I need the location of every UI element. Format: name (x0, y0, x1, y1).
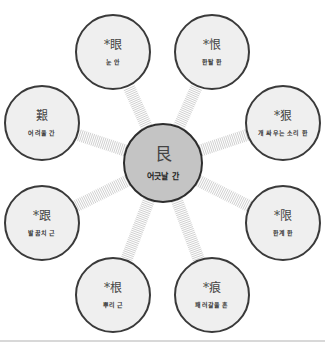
center-hanja-char: 艮 (155, 146, 172, 163)
korean-reading: 패러갈을 흔 (195, 300, 228, 309)
hanja-char: *眼 (104, 39, 122, 51)
radial-diagram: *眼 눈 안 *恨 한탈 한 *狠 개 싸우는 소리 한 *限 한계 한 *痕 … (0, 0, 325, 345)
korean-reading: 개 싸우는 소리 한 (258, 128, 308, 137)
center-node: 艮 어긋날 간 (123, 123, 203, 203)
satellite-node: *狠 개 싸우는 소리 한 (245, 85, 321, 161)
bottom-divider (0, 340, 325, 342)
korean-reading: 발꿈치 근 (28, 228, 55, 237)
korean-reading: 한탈 한 (202, 57, 223, 66)
hanja-char: *痕 (203, 282, 221, 294)
hanja-char: *限 (274, 210, 292, 222)
satellite-node: *眼 눈 안 (75, 14, 151, 90)
center-korean-reading: 어긋날 간 (147, 170, 179, 181)
korean-reading: 어려울 간 (28, 128, 55, 137)
hanja-char: *跟 (33, 210, 51, 222)
hanja-char: *根 (104, 282, 122, 294)
satellite-node: *痕 패러갈을 흔 (174, 257, 250, 333)
hanja-char: *恨 (203, 39, 221, 51)
satellite-node: *跟 발꿈치 근 (4, 185, 80, 261)
satellite-node: 艱 어려울 간 (4, 85, 80, 161)
korean-reading: 눈 안 (106, 57, 121, 66)
satellite-node: *根 뿌리 근 (75, 257, 151, 333)
hanja-char: 艱 (36, 110, 48, 122)
satellite-node: *恨 한탈 한 (174, 14, 250, 90)
korean-reading: 뿌리 근 (103, 300, 124, 309)
korean-reading: 한계 한 (273, 228, 294, 237)
hanja-char: *狠 (274, 110, 292, 122)
satellite-node: *限 한계 한 (245, 185, 321, 261)
